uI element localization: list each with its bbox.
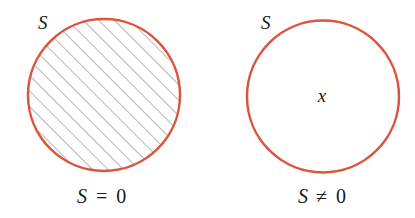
caption-right-lhs: S xyxy=(298,185,308,207)
caption-left-lhs: S xyxy=(77,185,87,207)
panel-s-not-equal-zero: S x S ≠ 0 xyxy=(247,12,399,207)
caption-left: S = 0 xyxy=(77,185,126,207)
set-label-right: S xyxy=(261,12,271,33)
set-label-left: S xyxy=(38,12,48,33)
caption-right-rhs: 0 xyxy=(336,185,346,207)
set-diagram-figure: S S = 0 S x S ≠ 0 xyxy=(0,0,415,218)
caption-left-rhs: 0 xyxy=(116,185,126,207)
panel-s-equals-zero: S S = 0 xyxy=(28,12,180,207)
caption-right-op: ≠ xyxy=(316,185,327,207)
caption-right: S ≠ 0 xyxy=(298,185,346,207)
caption-left-op: = xyxy=(96,185,107,207)
element-x-label: x xyxy=(317,85,327,106)
